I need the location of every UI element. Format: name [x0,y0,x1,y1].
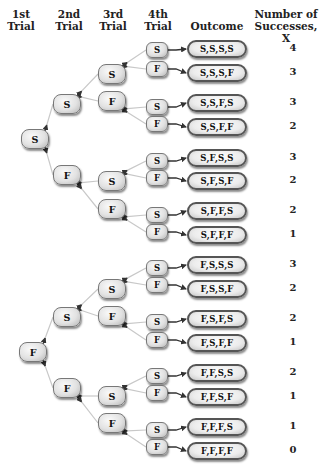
branch-line [127,389,146,393]
branch-line [82,289,98,305]
trial1-node-failure: F [19,342,47,362]
outcome-arrow [168,124,186,127]
header-trial-1-line2: Trial [6,20,36,32]
outcome-pill: F,F,F,F [187,442,247,460]
outcome-arrow [168,178,186,181]
outcome-pill: S,S,S,S [187,40,247,58]
branch-line [82,189,98,209]
branch-arrow [77,396,82,402]
outcome-arrow [168,103,186,107]
branch-line [127,322,146,324]
trial4-node-failure: F [146,332,168,348]
trial4-node-success: S [146,314,168,330]
header-successes-line1: Number of [249,8,323,20]
trial4-node-failure: F [146,170,168,186]
trial4-node-success: S [146,99,168,115]
header-trial-2-line2: Trial [53,20,85,32]
branch-line [127,328,146,340]
branch-line [127,215,146,217]
branch-line [127,282,146,285]
trial3-node-failure: F [98,91,126,111]
header-trial-2-line1: 2nd [53,8,85,20]
header-trial-3-line1: 3rd [97,8,129,20]
outcome-pill: F,S,F,S [187,310,247,328]
branch-line [127,220,146,232]
trial3-node-success: S [98,64,126,84]
header-successes-line2: Successes, X [249,20,323,44]
header-trial-3-line2: Trial [97,20,129,32]
branch-line [127,430,146,431]
branch-line [127,268,146,278]
trial4-node-success: S [146,368,168,384]
outcome-pill: F,F,F,S [187,418,247,436]
trial2-node-success: S [53,94,81,114]
trial4-node-failure: F [146,385,168,401]
header-trial-2: 2nd Trial [53,8,85,32]
branch-line [127,376,146,385]
outcome-arrow [168,340,186,343]
branch-line [127,174,146,178]
branch-line [82,402,98,423]
successes-count: 3 [283,258,303,269]
outcome-pill: S,F,F,S [187,202,247,220]
header-trial-4: 4th Trial [142,8,174,32]
outcome-arrow [168,49,186,50]
trial3-node-success: S [98,386,126,406]
branch-line [127,161,146,170]
header-trial-1-line1: 1st [6,8,36,20]
outcome-arrow [168,158,186,161]
outcome-pill: S,F,S,S [187,149,247,167]
successes-count: 2 [283,174,303,185]
successes-count: 2 [283,366,303,377]
trial4-node-failure: F [146,116,168,132]
outcome-arrow [168,285,186,289]
trial2-node-success: S [53,307,81,327]
outcome-arrow [168,373,186,376]
successes-count: 4 [283,42,303,53]
successes-count: 3 [283,66,303,77]
header-successes: Number of Successes, X [249,8,323,44]
trial3-node-failure: F [98,413,126,433]
successes-count: 2 [283,204,303,215]
branch-line [127,50,146,62]
outcome-pill: S,F,S,F [187,172,247,190]
outcome-arrow [168,265,186,268]
successes-count: 3 [283,96,303,107]
branch-arrow [43,360,45,366]
header-trial-4-line1: 4th [142,8,174,20]
probability-tree-diagram: 1st Trial 2nd Trial 3rd Trial 4th Trial … [0,0,323,475]
successes-count: 3 [283,151,303,162]
header-outcome: Outcome [185,20,249,32]
trial2-node-failure: F [53,378,81,398]
outcome-pill: S,S,F,F [187,118,247,136]
branch-line [82,74,98,91]
outcome-pill: F,S,S,F [187,280,247,298]
header-trial-4-line2: Trial [142,20,174,32]
trial4-node-success: S [146,207,168,223]
trial3-node-failure: F [98,306,126,326]
branch-line [82,97,98,101]
branch-arrow [122,109,127,112]
trial4-node-success: S [146,42,168,58]
trial4-node-failure: F [146,439,168,455]
branch-line [82,311,98,316]
outcome-arrow [168,211,186,215]
successes-count: 2 [283,312,303,323]
successes-count: 1 [283,390,303,401]
trial4-node-failure: F [146,61,168,77]
branch-line [127,107,146,109]
trial2-node-failure: F [53,165,81,185]
outcome-pill: S,F,F,F [187,226,247,244]
trial3-node-success: S [98,279,126,299]
trial4-node-failure: F [146,277,168,293]
outcome-pill: F,S,F,F [187,334,247,352]
outcome-arrow [168,427,186,430]
header-trial-3: 3rd Trial [97,8,129,32]
outcome-arrow [168,69,186,73]
branch-arrow [122,324,127,328]
outcome-pill: F,F,S,S [187,364,247,382]
trial3-node-success: S [98,171,126,191]
branch-line [47,104,53,125]
successes-count: 0 [283,444,303,455]
successes-count: 1 [283,336,303,347]
